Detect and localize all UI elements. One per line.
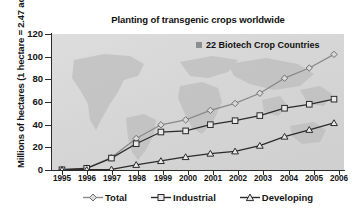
x-axis-line bbox=[51, 170, 345, 171]
y-tick-40 bbox=[45, 125, 52, 126]
y-tick-80 bbox=[45, 79, 52, 80]
legend-swatch-icon bbox=[196, 42, 202, 48]
y-tick-100 bbox=[45, 57, 52, 58]
y-tick-60 bbox=[45, 102, 52, 103]
y-label-80: 80 bbox=[13, 73, 43, 84]
chart-title: Planting of transgenic crops worldwide bbox=[52, 14, 344, 25]
chart-figure: Millions of hectares (1 hectare = 2.47 a… bbox=[0, 0, 354, 216]
legend-item-industrial[interactable]: Industrial bbox=[151, 192, 216, 203]
y-label-100: 100 bbox=[13, 51, 43, 62]
triangle-marker-icon bbox=[240, 192, 260, 203]
legend-label-industrial: Industrial bbox=[173, 192, 216, 203]
x-label-2006: 2006 bbox=[322, 174, 354, 183]
series-line-developing-corrected bbox=[62, 123, 334, 170]
y-label-60: 60 bbox=[13, 96, 43, 107]
y-tick-20 bbox=[45, 147, 52, 148]
biotech-countries-annotation: 22 Biotech Crop Countries bbox=[196, 40, 320, 50]
diamond-marker-icon bbox=[83, 192, 103, 203]
legend-item-developing[interactable]: Developing bbox=[240, 192, 313, 203]
legend-label-developing: Developing bbox=[262, 192, 313, 203]
square-marker-icon bbox=[151, 192, 171, 203]
chart-legend: Total Industrial Developing bbox=[52, 192, 344, 203]
y-label-120: 120 bbox=[13, 28, 43, 39]
legend-item-total[interactable]: Total bbox=[83, 192, 127, 203]
y-label-20: 20 bbox=[13, 141, 43, 152]
series-layer bbox=[52, 34, 344, 170]
y-label-0: 0 bbox=[13, 164, 43, 175]
plot-area: 22 Biotech Crop Countries bbox=[52, 34, 344, 170]
marker-group-total bbox=[59, 51, 337, 170]
legend-label-total: Total bbox=[105, 192, 127, 203]
biotech-countries-label: 22 Biotech Crop Countries bbox=[206, 40, 320, 50]
y-tick-120 bbox=[45, 34, 52, 35]
y-tick-0 bbox=[45, 170, 52, 171]
y-label-40: 40 bbox=[13, 119, 43, 130]
series-line-total bbox=[62, 54, 334, 169]
